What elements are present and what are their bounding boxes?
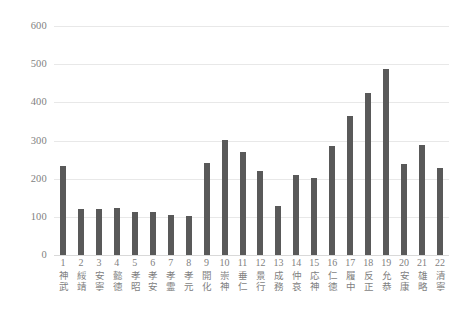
x-tick-name-13: 成務 (273, 271, 285, 292)
bar-slot (287, 26, 305, 255)
x-label-slot: 21雄略 (413, 256, 431, 292)
x-tick-name-6: 孝安 (147, 271, 159, 292)
bar-12[interactable] (257, 171, 263, 255)
y-tick-label-100: 100 (31, 212, 47, 223)
bar-14[interactable] (293, 175, 299, 255)
bar-13[interactable] (275, 206, 281, 255)
bar-slot (144, 26, 162, 255)
bar-10[interactable] (222, 140, 228, 255)
x-tick-number-2: 2 (78, 256, 83, 269)
x-label-slot: 15応神 (305, 256, 323, 292)
bar-7[interactable] (168, 215, 174, 255)
x-label-slot: 19允恭 (377, 256, 395, 292)
bar-19[interactable] (383, 69, 389, 255)
x-label-slot: 16仁徳 (323, 256, 341, 292)
bar-9[interactable] (204, 163, 210, 255)
x-label-slot: 9開化 (198, 256, 216, 292)
x-tick-name-2: 綏靖 (75, 271, 87, 292)
x-tick-name-7: 孝霊 (165, 271, 177, 292)
bar-slot (431, 26, 449, 255)
x-tick-number-8: 8 (186, 256, 191, 269)
x-tick-number-12: 12 (255, 256, 265, 269)
x-tick-name-1: 神武 (57, 271, 69, 292)
x-label-slot: 18反正 (359, 256, 377, 292)
bar-3[interactable] (96, 209, 102, 255)
bar-4[interactable] (114, 208, 120, 255)
x-label-slot: 6孝安 (144, 256, 162, 292)
x-tick-name-9: 開化 (201, 271, 213, 292)
bar-22[interactable] (437, 168, 443, 255)
x-label-slot: 3安寧 (90, 256, 108, 292)
x-tick-number-13: 13 (273, 256, 283, 269)
x-label-slot: 8孝元 (180, 256, 198, 292)
x-label-slot: 17履中 (341, 256, 359, 292)
bar-slot (305, 26, 323, 255)
bar-slot (377, 26, 395, 255)
bar-slot (323, 26, 341, 255)
bar-slot (413, 26, 431, 255)
bar-8[interactable] (186, 216, 192, 255)
x-label-slot: 10崇神 (216, 256, 234, 292)
x-label-slot: 1神武 (54, 256, 72, 292)
bar-slot (180, 26, 198, 255)
bar-slot (162, 26, 180, 255)
x-tick-number-1: 1 (60, 256, 65, 269)
x-tick-name-12: 景行 (255, 271, 267, 292)
x-label-slot: 2綏靖 (72, 256, 90, 292)
x-tick-name-18: 反正 (362, 271, 374, 292)
x-tick-name-10: 崇神 (219, 271, 231, 292)
x-tick-number-7: 7 (168, 256, 173, 269)
x-tick-number-4: 4 (114, 256, 119, 269)
x-tick-name-4: 懿徳 (111, 271, 123, 292)
bar-slot (216, 26, 234, 255)
bar-11[interactable] (240, 152, 246, 255)
bar-slot (359, 26, 377, 255)
bar-20[interactable] (401, 164, 407, 255)
y-tick-label-200: 200 (31, 173, 47, 184)
x-tick-number-11: 11 (238, 256, 248, 269)
x-label-slot: 11垂仁 (234, 256, 252, 292)
bar-slot (251, 26, 269, 255)
x-tick-number-10: 10 (220, 256, 230, 269)
x-tick-number-18: 18 (363, 256, 373, 269)
x-label-slot: 5孝昭 (126, 256, 144, 292)
bar-slot (395, 26, 413, 255)
x-tick-number-3: 3 (96, 256, 101, 269)
y-tick-label-0: 0 (42, 250, 47, 261)
x-tick-name-3: 安寧 (93, 271, 105, 292)
x-tick-name-19: 允恭 (380, 271, 392, 292)
bar-slot (234, 26, 252, 255)
x-label-slot: 20安康 (395, 256, 413, 292)
x-tick-name-22: 清寧 (434, 271, 446, 292)
x-tick-number-22: 22 (435, 256, 445, 269)
x-tick-number-21: 21 (417, 256, 427, 269)
x-label-slot: 22清寧 (431, 256, 449, 292)
x-tick-number-9: 9 (204, 256, 209, 269)
x-label-slot: 14仲哀 (287, 256, 305, 292)
x-tick-number-5: 5 (132, 256, 137, 269)
plot-area: 0100200300400500600 (54, 26, 449, 255)
bar-slot (341, 26, 359, 255)
bar-21[interactable] (419, 145, 425, 255)
x-label-slot: 4懿徳 (108, 256, 126, 292)
bar-slot (72, 26, 90, 255)
x-label-slot: 13成務 (269, 256, 287, 292)
bar-5[interactable] (132, 212, 138, 255)
bar-17[interactable] (347, 116, 353, 255)
bar-2[interactable] (78, 209, 84, 255)
bar-6[interactable] (150, 212, 156, 255)
bar-1[interactable] (60, 166, 66, 255)
y-tick-label-400: 400 (31, 97, 47, 108)
bar-slot (198, 26, 216, 255)
x-tick-name-11: 垂仁 (237, 271, 249, 292)
bar-slot (90, 26, 108, 255)
x-tick-number-14: 14 (291, 256, 301, 269)
bar-18[interactable] (365, 93, 371, 255)
x-tick-name-8: 孝元 (183, 271, 195, 292)
x-tick-number-15: 15 (309, 256, 319, 269)
bar-15[interactable] (311, 178, 317, 255)
bar-16[interactable] (329, 146, 335, 255)
x-tick-name-14: 仲哀 (291, 271, 303, 292)
x-tick-name-16: 仁徳 (327, 271, 339, 292)
x-label-slot: 7孝霊 (162, 256, 180, 292)
